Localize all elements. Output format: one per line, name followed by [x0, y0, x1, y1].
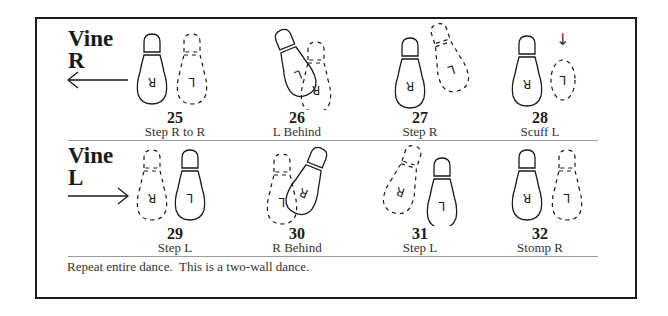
right-foot-icon: R: [512, 36, 541, 106]
svg-text:R: R: [148, 75, 156, 89]
svg-text:L: L: [292, 67, 304, 83]
step-label: L Behind: [237, 125, 357, 139]
step-25: 25 Step R to R: [115, 110, 235, 139]
step-28: 28 Scuff L: [480, 110, 600, 139]
left-foot-icon: L: [427, 158, 456, 226]
right-foot-icon: R: [395, 38, 424, 108]
left-foot-dashed-icon: L: [552, 150, 581, 220]
left-foot-dashed-icon: L: [551, 60, 575, 100]
svg-text:R: R: [297, 185, 310, 201]
left-foot-dashed-icon: L: [177, 34, 206, 104]
svg-text:R: R: [523, 77, 531, 91]
left-foot-icon: L: [175, 150, 204, 220]
svg-text:L: L: [438, 199, 445, 213]
step-number: 27: [360, 110, 480, 125]
arrow-left-icon: [66, 70, 130, 90]
step-number: 25: [115, 110, 235, 125]
step-number: 29: [115, 226, 235, 241]
svg-text:L: L: [446, 62, 457, 77]
step-number: 28: [480, 110, 600, 125]
footprints-step-31: R L: [378, 142, 468, 226]
footprints-step-29: R L: [130, 146, 220, 226]
step-label: Step R: [360, 125, 480, 139]
step-number: 32: [480, 226, 600, 241]
section-title-vine-l: Vine L: [68, 145, 113, 189]
right-foot-dashed-icon: R: [380, 142, 430, 217]
step-label: Step R to R: [115, 125, 235, 139]
footprints-step-25: R L: [130, 30, 220, 110]
step-label: Step L: [360, 241, 480, 255]
step-number: 26: [237, 110, 357, 125]
step-number: 30: [237, 226, 357, 241]
left-foot-dashed-icon: L: [267, 154, 296, 224]
section-title-vine-r: Vine R: [68, 28, 113, 72]
scuff-arrow-down-icon: ↓: [556, 30, 569, 49]
arrow-right-icon: [66, 186, 130, 206]
footprints-step-27: R L: [388, 22, 478, 110]
svg-text:R: R: [148, 191, 156, 205]
svg-text:L: L: [559, 73, 566, 87]
step-label: Stomp R: [480, 241, 600, 255]
footprints-step-26: L R: [258, 24, 348, 110]
svg-text:L: L: [186, 191, 193, 205]
svg-text:L: L: [188, 75, 195, 89]
step-27: 27 Step R: [360, 110, 480, 139]
right-foot-icon: R: [137, 34, 166, 104]
svg-text:L: L: [563, 191, 570, 205]
footprints-step-28: R L: [505, 28, 595, 110]
step-number: 31: [360, 226, 480, 241]
section-title-line2: R: [68, 50, 113, 72]
section-title-line1: Vine: [68, 28, 113, 50]
step-30: 30 R Behind: [237, 226, 357, 255]
svg-text:R: R: [406, 79, 414, 93]
step-label: Step L: [115, 241, 235, 255]
svg-text:R: R: [312, 83, 320, 97]
footer-divider: [68, 256, 598, 257]
right-foot-dashed-icon: R: [301, 42, 330, 110]
left-foot-dashed-icon: L: [423, 22, 473, 95]
step-26: 26 L Behind: [237, 110, 357, 139]
svg-text:R: R: [394, 184, 406, 200]
right-foot-icon: R: [512, 150, 541, 220]
step-label: R Behind: [237, 241, 357, 255]
footprints-step-32: R L: [505, 146, 595, 226]
section-divider: [68, 140, 598, 141]
step-29: 29 Step L: [115, 226, 235, 255]
section-title-line1: Vine: [68, 145, 113, 167]
step-31: 31 Step L: [360, 226, 480, 255]
footer-note: Repeat entire dance. This is a two-wall …: [67, 259, 309, 275]
right-foot-icon: R: [282, 143, 335, 219]
step-label: Scuff L: [480, 125, 600, 139]
svg-text:L: L: [278, 195, 285, 209]
right-foot-dashed-icon: R: [137, 150, 166, 220]
step-32: 32 Stomp R: [480, 226, 600, 255]
footprints-step-30: L R: [258, 142, 348, 226]
svg-text:R: R: [523, 191, 531, 205]
